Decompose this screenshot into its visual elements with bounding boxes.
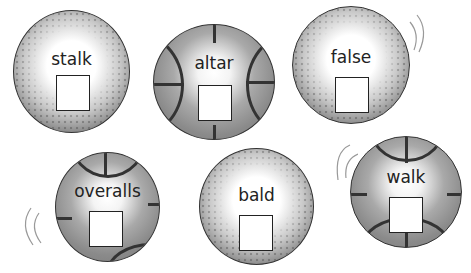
answer-box[interactable] (198, 85, 232, 121)
seam (153, 30, 184, 140)
answer-box[interactable] (89, 211, 123, 247)
ball-walk: walk (350, 136, 462, 248)
seam (213, 25, 216, 43)
word-label: false (293, 47, 409, 67)
seam (213, 125, 216, 140)
word-label: stalk (14, 49, 129, 69)
seam (367, 136, 447, 162)
seam (447, 193, 462, 196)
word-label: bald (200, 185, 313, 205)
word-label: overalls (56, 181, 159, 201)
answer-box[interactable] (335, 77, 369, 113)
word-label: altar (154, 53, 274, 73)
ball-stalk: stalk (13, 10, 130, 133)
word-label: walk (351, 167, 461, 187)
ball-false: false (292, 6, 410, 124)
seam (351, 193, 367, 196)
ball-altar: altar (153, 24, 275, 140)
motion-lines-icon (15, 205, 45, 250)
motion-lines-icon (405, 12, 435, 57)
seam (246, 30, 275, 140)
answer-box[interactable] (389, 197, 423, 233)
ball-overalls: overalls (55, 152, 160, 262)
ball-bald: bald (199, 148, 314, 265)
answer-box[interactable] (56, 75, 90, 111)
seam (56, 217, 72, 220)
seam (148, 203, 160, 206)
answer-box[interactable] (239, 215, 273, 251)
seam (68, 152, 148, 178)
